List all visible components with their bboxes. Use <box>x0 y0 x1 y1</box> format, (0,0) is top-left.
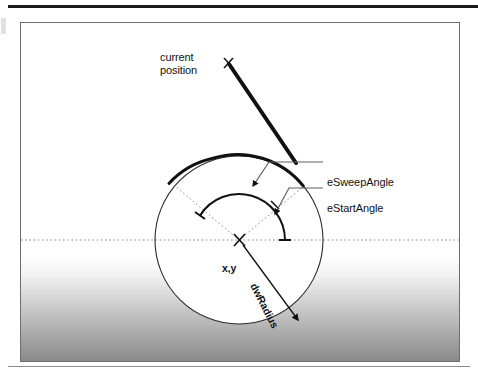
bottom-horizontal-rule <box>8 366 470 367</box>
current-position-label: current position <box>160 51 197 76</box>
diagram-canvas <box>21 23 459 361</box>
center-point-label: x,y <box>222 262 236 275</box>
scan-margin-artifact <box>1 18 6 34</box>
arc-diagram-figure: current position eSweepAngle eStartAngle… <box>20 22 460 362</box>
current-position-line <box>229 64 296 163</box>
page-canvas: current position eSweepAngle eStartAngle… <box>0 0 478 380</box>
start-angle-label: eStartAngle <box>327 202 383 215</box>
sweep-angle-label: eSweepAngle <box>327 176 394 189</box>
top-horizontal-rule <box>8 5 478 8</box>
